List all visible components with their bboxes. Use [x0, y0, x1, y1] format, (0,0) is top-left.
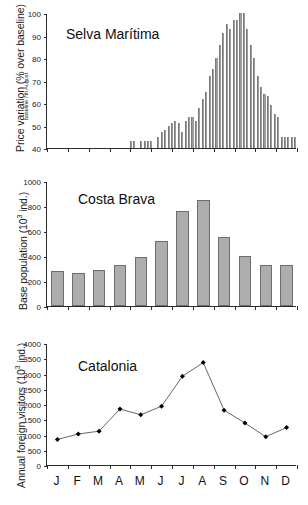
y-tick-label: 2000: [11, 401, 41, 410]
data-point-marker: [138, 412, 143, 417]
x-tick-mark: [68, 306, 69, 310]
x-axis-label-may: M: [135, 474, 145, 488]
y-tick-label: 3000: [11, 370, 41, 379]
bar-costa-month: [280, 265, 293, 306]
bar-selva-day: [233, 20, 235, 148]
x-tick-mark: [214, 306, 215, 310]
y-tick-mark: [44, 282, 47, 283]
bar-selva-day: [185, 121, 187, 148]
bar-selva-day: [253, 58, 255, 148]
x-tick-mark: [255, 306, 256, 310]
x-tick-mark: [89, 148, 90, 152]
x-axis-label-april: A: [115, 474, 123, 488]
y-tick-label: 50: [11, 122, 41, 131]
data-point-marker: [55, 437, 60, 442]
x-axis-label-august: A: [198, 474, 206, 488]
bar-costa-month: [260, 265, 273, 306]
x-tick-mark: [130, 306, 131, 310]
y-tick-label: 4000: [11, 340, 41, 349]
x-tick-mark: [297, 465, 298, 469]
bar-selva-day: [164, 130, 166, 148]
bar-selva-day: [274, 114, 276, 148]
y-tick-mark: [44, 232, 47, 233]
bar-costa-month: [218, 237, 231, 306]
plot-area-selva: 405060708090100: [46, 14, 296, 149]
bar-costa-month: [93, 270, 106, 306]
y-tick-mark: [44, 14, 47, 15]
bar-selva-day: [287, 137, 289, 148]
bar-selva-day: [212, 69, 214, 148]
y-tick-label: 3500: [11, 355, 41, 364]
bar-selva-day: [250, 45, 252, 149]
bar-selva-day: [147, 141, 149, 148]
x-tick-mark: [255, 148, 256, 152]
bar-selva-day: [239, 13, 241, 148]
y-tick-label: 90: [11, 32, 41, 41]
bar-selva-day: [195, 121, 197, 148]
data-point-marker: [284, 425, 289, 430]
y-tick-label: 2500: [11, 385, 41, 394]
x-tick-mark: [235, 148, 236, 152]
y-axis-title-catalonia-exp: 3: [14, 366, 21, 370]
x-tick-mark: [47, 148, 48, 152]
panel-catalonia: Annual foreign visitors (103 ind.) Catal…: [0, 328, 308, 505]
panel-selva-maritima: Price variation (% over baseline) baseli…: [0, 0, 308, 158]
bar-selva-day: [281, 137, 283, 148]
bar-selva-day: [202, 99, 204, 149]
bar-selva-day: [263, 94, 265, 148]
y-tick-mark: [44, 257, 47, 258]
y-tick-label: 0: [11, 462, 41, 471]
bar-costa-month: [72, 273, 85, 306]
bar-selva-day: [236, 20, 238, 148]
y-tick-label: 800: [11, 203, 41, 212]
plot-area-catalonia: 05001000150020002500300035004000: [46, 344, 296, 466]
bar-selva-day: [161, 132, 163, 148]
bar-selva-day: [284, 137, 286, 148]
bar-selva-day: [226, 24, 228, 148]
y-tick-label: 80: [11, 55, 41, 64]
bar-selva-day: [219, 45, 221, 149]
bar-selva-day: [246, 29, 248, 148]
data-point-marker: [242, 420, 247, 425]
line-series-catalonia: [47, 344, 297, 466]
data-point-marker: [76, 431, 81, 436]
y-tick-label: 600: [11, 228, 41, 237]
y-tick-label: 200: [11, 278, 41, 287]
bar-selva-day: [291, 137, 293, 148]
bar-selva-day: [198, 108, 200, 149]
x-axis-label-february: F: [74, 474, 81, 488]
y-tick-label: 0: [11, 303, 41, 312]
x-tick-mark: [276, 148, 277, 152]
bar-costa-month: [197, 200, 210, 306]
x-tick-mark: [193, 306, 194, 310]
x-axis-label-december: D: [281, 474, 290, 488]
y-tick-mark: [44, 59, 47, 60]
bar-selva-day: [209, 76, 211, 148]
y-axis-title-costa-exp: 3: [16, 215, 23, 219]
bar-selva-day: [267, 96, 269, 148]
y-tick-mark: [44, 182, 47, 183]
x-tick-mark: [130, 148, 131, 152]
x-tick-mark: [47, 306, 48, 310]
y-tick-label: 1000: [11, 178, 41, 187]
y-tick-mark: [44, 127, 47, 128]
x-axis-label-march: M: [93, 474, 103, 488]
panel-costa-brava: Base population (103 ind.) Costa Brava 0…: [0, 158, 308, 328]
bar-selva-day: [157, 137, 159, 148]
y-tick-mark: [44, 82, 47, 83]
x-axis-label-september: S: [219, 474, 227, 488]
bar-selva-day: [191, 117, 193, 149]
x-tick-mark: [297, 306, 298, 310]
x-tick-mark: [193, 148, 194, 152]
x-tick-mark: [68, 148, 69, 152]
y-tick-label: 40: [11, 145, 41, 154]
bar-selva-day: [260, 87, 262, 148]
data-point-marker: [222, 408, 227, 413]
bar-selva-day: [222, 33, 224, 148]
bar-selva-day: [188, 117, 190, 149]
y-tick-label: 60: [11, 100, 41, 109]
bar-selva-day: [171, 123, 173, 148]
bar-selva-day: [270, 105, 272, 148]
y-tick-mark: [44, 207, 47, 208]
bar-selva-day: [243, 13, 245, 148]
